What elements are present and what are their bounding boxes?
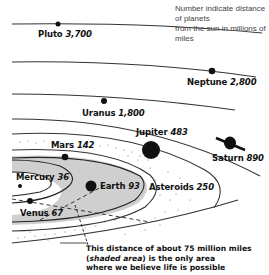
neptune-orbit: [12, 62, 256, 77]
uranus-label: Uranus 1,800: [82, 108, 145, 118]
jupiter-label: Jupiter 483: [136, 127, 188, 137]
asteroids-label: Asteroids 250: [149, 182, 214, 192]
venus-label: Venus 67: [20, 208, 63, 218]
mercury-label: Mercury 36: [16, 172, 69, 182]
caption-line-3: where we believe life is possible: [86, 263, 266, 273]
note-line-2: from the sun in millions of miles: [175, 24, 269, 44]
pluto-label: Pluto 3,700: [38, 29, 92, 39]
pluto-icon: [56, 22, 61, 27]
earth-label: Earth 93: [100, 181, 140, 191]
saturn-icon: [216, 137, 245, 151]
caption-line-1: This distance of about 75 million miles: [86, 244, 266, 254]
caption-line-2: (shaded area) is the only area: [86, 254, 266, 264]
uranus-icon: [101, 98, 107, 104]
mars-label: Mars 142: [51, 140, 94, 150]
habitable-zone-caption: This distance of about 75 million miles …: [86, 244, 266, 273]
mars-icon: [62, 154, 69, 161]
jupiter-icon: [142, 141, 160, 159]
earth-icon: [86, 181, 97, 192]
saturn-label: Saturn 890: [212, 153, 264, 163]
note-line-1: Number indicate distance of planets: [175, 4, 269, 24]
venus-icon: [27, 198, 33, 204]
neptune-icon: [209, 68, 216, 75]
neptune-label: Neptune 2,800: [187, 77, 256, 87]
legend-note: Number indicate distance of planets from…: [175, 4, 269, 44]
mercury-icon: [18, 184, 22, 188]
